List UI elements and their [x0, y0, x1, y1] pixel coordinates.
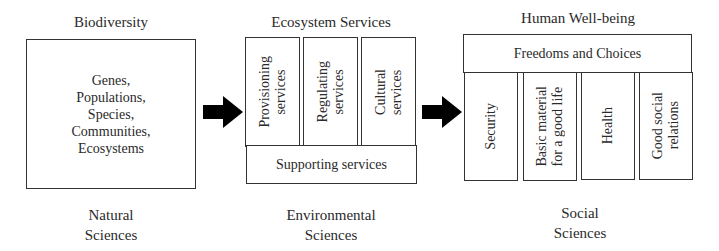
regulating-services-box: Regulatingservices: [303, 37, 358, 147]
freedoms-and-choices-label: Freedoms and Choices: [514, 46, 642, 62]
social-sciences-label: Social Sciences: [520, 203, 640, 243]
provisioning-services-label: Provisioningservices: [257, 56, 289, 128]
freedoms-and-choices-box: Freedoms and Choices: [463, 34, 692, 73]
security-box: Security: [464, 72, 518, 181]
right-arrow-icon: [422, 96, 462, 128]
good-social-relations-box: Good socialrelations: [639, 72, 693, 180]
biodiversity-title: Biodiversity: [26, 14, 196, 31]
level-ecosystems: Ecosystems: [72, 140, 151, 157]
biodiversity-levels: Genes, Populations, Species, Communities…: [72, 72, 151, 157]
basic-material-label: Basic materialfor a good life: [534, 86, 566, 166]
provisioning-services-box: Provisioningservices: [245, 37, 300, 147]
cultural-services-box: Culturalservices: [361, 37, 416, 147]
supporting-services-box: Supporting services: [246, 145, 417, 184]
level-species: Species,: [72, 106, 151, 123]
level-populations: Populations,: [72, 89, 151, 106]
ecosystem-services-title: Ecosystem Services: [245, 14, 417, 31]
human-well-being-title: Human Well-being: [463, 10, 693, 27]
supporting-services-label: Supporting services: [276, 157, 387, 173]
security-label: Security: [483, 103, 499, 150]
cultural-services-label: Culturalservices: [373, 69, 405, 115]
regulating-services-label: Regulatingservices: [315, 61, 347, 122]
health-label: Health: [600, 107, 616, 144]
natural-sciences-label: Natural Sciences: [26, 205, 196, 245]
health-box: Health: [581, 72, 635, 180]
level-communities: Communities,: [72, 123, 151, 140]
good-social-relations-label: Good socialrelations: [650, 92, 682, 159]
environmental-sciences-label: Environmental Sciences: [245, 205, 417, 245]
level-genes: Genes,: [72, 72, 151, 89]
biodiversity-box: Genes, Populations, Species, Communities…: [26, 39, 196, 189]
basic-material-box: Basic materialfor a good life: [523, 72, 577, 181]
right-arrow-icon: [203, 96, 243, 128]
